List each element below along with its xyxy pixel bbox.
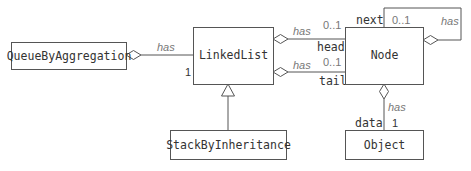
has-label: has [293, 25, 311, 37]
class-name: QueueByAggregation [7, 49, 132, 63]
multiplicity-label: 0..1 [323, 56, 341, 68]
aggregation-diamond-icon [273, 68, 288, 77]
multiplicity-label: 0..1 [323, 19, 341, 31]
role-label-data: data [355, 116, 383, 130]
class-queuebyaggregation[interactable]: QueueByAggregation [7, 43, 132, 70]
generalization-triangle-icon [222, 84, 235, 96]
aggregation-diamond-icon [380, 84, 389, 99]
class-stackbyinheritance[interactable]: StackByInheritance [166, 131, 291, 160]
queue-linkedlist-aggregation: has 1 [126, 41, 193, 78]
multiplicity-label: 1 [185, 66, 191, 78]
class-name: Node [371, 48, 399, 62]
aggregation-diamond-icon [273, 35, 288, 44]
class-name: Object [364, 138, 406, 152]
role-label-head: head [317, 40, 345, 54]
role-label-tail: tail [319, 74, 347, 88]
multiplicity-label: 1 [392, 117, 398, 129]
uml-class-diagram: has 1 has 0..1 head has 0..1 tail next 0… [0, 0, 471, 171]
linkedlist-node-tail-aggregation: has 0..1 tail [273, 56, 347, 88]
aggregation-diamond-icon [423, 36, 438, 45]
role-label-next: next [356, 13, 384, 27]
has-label: has [157, 41, 175, 53]
class-node[interactable]: Node [346, 28, 424, 85]
class-name: StackByInheritance [166, 138, 291, 152]
has-label: has [293, 59, 311, 71]
stack-linkedlist-generalization [222, 84, 235, 130]
linkedlist-node-head-aggregation: has 0..1 head [273, 19, 345, 54]
class-object[interactable]: Object [346, 131, 424, 160]
has-label: has [441, 15, 459, 27]
multiplicity-label: 0..1 [392, 14, 410, 26]
class-name: LinkedList [199, 48, 268, 62]
has-label: has [388, 101, 406, 113]
class-linkedlist[interactable]: LinkedList [194, 28, 274, 85]
node-object-data-aggregation: has data 1 [355, 84, 406, 130]
